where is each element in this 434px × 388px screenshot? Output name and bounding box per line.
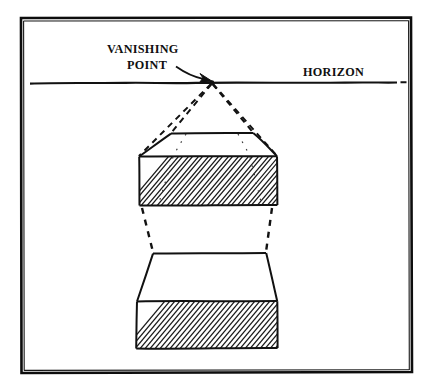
diagram-canvas: VANISHING POINT HORIZON: [0, 0, 434, 388]
vanishing-point-label-line1: VANISHING: [107, 42, 179, 56]
horizon-annotation: HORIZON: [303, 65, 364, 79]
horizon-line: [30, 82, 407, 83]
perspective-diagram-figure: VANISHING POINT HORIZON: [0, 0, 434, 388]
horizon-label: HORIZON: [303, 65, 364, 79]
lower-box-upper-face: [137, 253, 277, 302]
vanishing-point-label-line2: POINT: [127, 58, 167, 72]
